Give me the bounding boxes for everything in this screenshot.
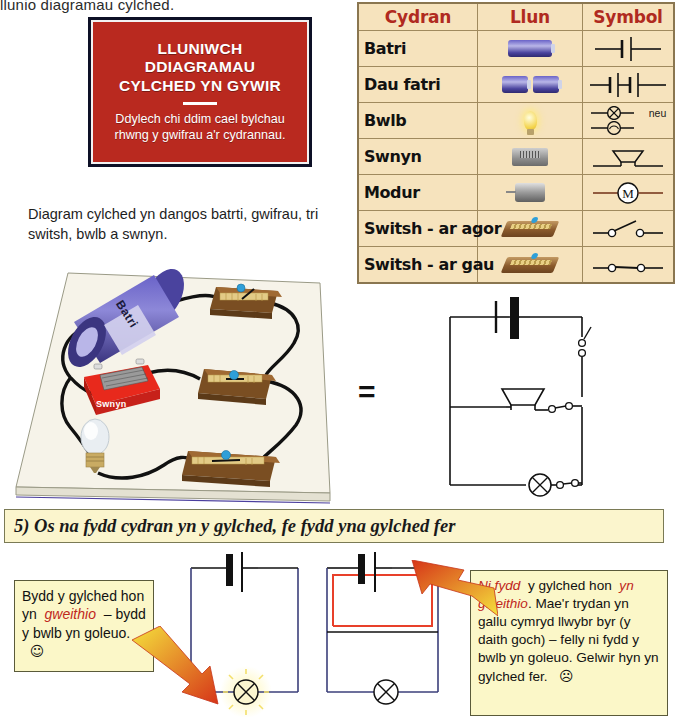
switch-3d-2 [198,369,276,405]
buzzer-symbol-icon [591,143,665,171]
table-row: Batri [358,31,674,67]
question-highlight-1: na fydd cydran [59,516,173,537]
svg-text:M: M [622,186,634,201]
arrow-pointing-to-short-path [398,560,498,635]
warning-sign-divider [183,102,217,105]
question-text-part1: Os [34,516,55,537]
question-highlight-2: gylched fer [371,516,456,537]
motor-symbol-icon: M [591,181,665,205]
right-arrow-svg [398,560,498,635]
note-right-text-1: y gylched hon [528,578,612,593]
component-symbol-switsh-ar-agor [583,211,675,247]
circuit-photo-illustration: Batri Swnyn [8,265,338,510]
component-picture-modur [478,175,583,211]
battery-photo-icon [502,76,528,93]
two-cell-battery-symbol-icon [588,71,668,99]
arrow-pointing-to-working-lamp [132,626,242,706]
components-symbols-table: Cydran Llun Symbol Batri [357,2,675,284]
question-text-part2: yn y gylched, fe fydd yna [178,516,366,537]
equals-sign: = [358,375,376,409]
question-5-banner: 5) Os na fydd cydran yn y gylched, fe fy… [4,509,664,543]
component-name-switsh-ar-agor: Switsh - ar agor [358,211,478,247]
warning-sign: LLUNIWCH DDIAGRAMAU CYLCHED YN GYWIR Ddy… [88,17,312,167]
warning-sign-body: Ddylech chi ddim cael bylchau rhwng y gw… [101,111,299,144]
table-header-row: Cydran Llun Symbol [358,3,674,31]
component-name-dau-fatri: Dau fatri [358,67,478,103]
component-picture-swnyn [478,139,583,175]
component-symbol-dau-fatri [583,67,675,103]
warning-sign-title: LLUNIWCH DDIAGRAMAU CYLCHED YN GYWIR [119,40,281,95]
component-picture-dau-fatri [478,67,583,103]
equivalent-schematic-diagram [440,295,660,510]
question-number: 5) [14,516,29,537]
warning-title-line-1: LLUNIWCH [119,40,281,58]
component-name-modur: Modur [358,175,478,211]
light-bulb-photo-icon [524,111,537,130]
component-name-switsh-ar-gau: Switsh - ar gau [358,247,478,284]
table-header-cydran: Cydran [358,3,478,31]
closed-switch-photo-icon [501,257,559,273]
lamp-cross-symbol-icon [590,106,646,120]
note-left-emphasis: gweithio [45,606,96,622]
table-header-symbol: Symbol [583,3,675,31]
table-row: Switsh - ar agor [358,211,674,247]
table-row: Modur M [358,175,674,211]
table-row: Dau fatri [358,67,674,103]
table-header-llun: Llun [478,3,583,31]
warning-sign-inner: LLUNIWCH DDIAGRAMAU CYLCHED YN GYWIR Ddy… [91,20,309,164]
component-symbol-swnyn [583,139,675,175]
battery-symbol-icon [591,35,665,63]
table-row: Swnyn [358,139,674,175]
cut-off-heading-text: llunio diagramau cylched. [0,0,340,13]
warning-title-line-3: CYLCHED YN GYWIR [119,77,281,95]
table-row: Bwlb neu [358,103,674,139]
smiley-face-icon: ☺ [30,643,45,659]
neu-or-label: neu [649,107,667,119]
equivalent-schematic-svg [440,295,660,510]
component-symbol-modur: M [583,175,675,211]
component-picture-batri [478,31,583,67]
component-symbol-bwlb: neu [583,103,675,139]
circuit-photo-svg [8,265,338,510]
component-picture-bwlb [478,103,583,139]
battery-photo-icon [533,76,559,93]
short-circuit-note: Ni fydd y gylched hon yn gweithio. Mae'r… [470,570,668,716]
left-arrow-svg [132,626,242,706]
component-symbol-batri [583,31,675,67]
warning-title-line-2: DDIAGRAMAU [119,58,281,76]
buzzer-3d-label: Swnyn [96,399,127,409]
table-row: Switsh - ar gau [358,247,674,284]
battery-photo-icon [508,40,552,57]
open-switch-photo-icon [501,221,559,237]
component-name-bwlb: Bwlb [358,103,478,139]
lamp-arc-symbol-icon [590,121,646,135]
circuit-diagram-caption: Diagram cylched yn dangos batrti, gwifra… [28,205,348,244]
motor-photo-icon [515,183,545,202]
sad-face-icon: ☹ [559,668,574,684]
component-symbol-switsh-ar-gau [583,247,675,284]
buzzer-photo-icon [512,148,548,166]
closed-switch-symbol-icon [591,252,665,278]
open-switch-symbol-icon [591,216,665,242]
component-name-batri: Batri [358,31,478,67]
component-name-swnyn: Swnyn [358,139,478,175]
